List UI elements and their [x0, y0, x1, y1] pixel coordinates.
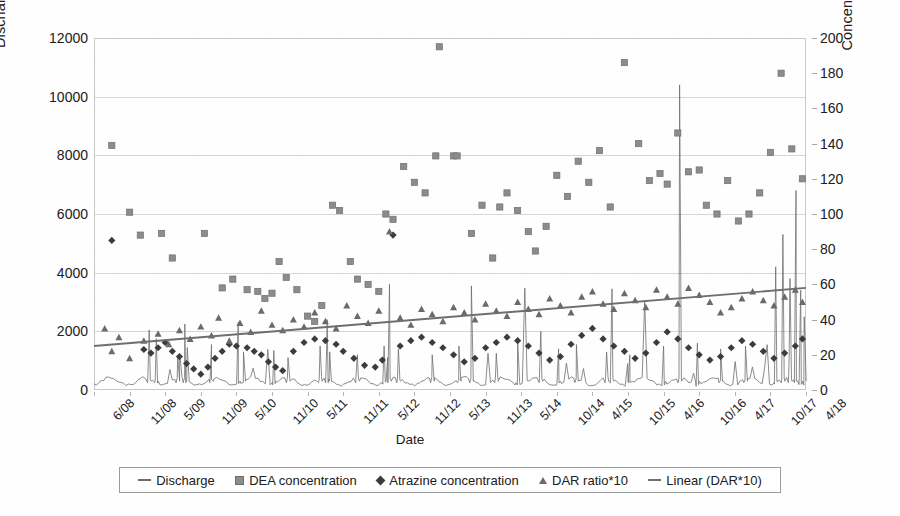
dea-marker — [255, 288, 261, 294]
atrazine-marker — [461, 358, 468, 365]
x-axis-tick: 5/14 — [537, 396, 564, 423]
x-axis-tickmark — [343, 392, 344, 396]
dar-marker — [126, 355, 133, 361]
atrazine-marker — [279, 367, 286, 374]
dar-marker — [799, 299, 806, 305]
atrazine-marker — [621, 348, 628, 355]
atrazine-marker — [350, 355, 357, 362]
legend-item-label: Atrazine concentration — [389, 473, 518, 488]
y-axis-right-tick: 20 — [820, 348, 860, 362]
atrazine-marker — [706, 356, 713, 363]
dea-marker — [497, 204, 503, 210]
atrazine-marker — [503, 334, 510, 341]
atrazine-marker — [258, 351, 265, 358]
atrazine-marker — [211, 355, 218, 362]
atrazine-marker — [169, 348, 176, 355]
dea-marker — [169, 255, 175, 261]
x-axis-tickmark — [557, 392, 558, 396]
dea-marker — [244, 287, 250, 293]
dea-marker — [262, 295, 268, 301]
dea-marker — [564, 193, 570, 199]
y-axis-left-tick: 2000 — [32, 324, 88, 338]
dea-marker — [201, 230, 207, 236]
y-axis-left-tick: 4000 — [32, 266, 88, 280]
atrazine-marker — [176, 353, 183, 360]
dea-marker — [294, 287, 300, 293]
legend-diamond-icon — [376, 475, 386, 485]
dea-marker — [703, 202, 709, 208]
x-axis-tickmark — [94, 392, 95, 396]
y-axis-left-tick: 0 — [32, 383, 88, 397]
dea-marker — [778, 70, 784, 76]
y-axis-right-tick: 40 — [820, 313, 860, 327]
atrazine-marker — [792, 342, 799, 349]
atrazine-marker — [439, 344, 446, 351]
atrazine-marker — [332, 341, 339, 348]
dea-marker — [422, 190, 428, 196]
plot-area — [94, 38, 806, 390]
dea-marker — [312, 318, 318, 324]
legend-item[interactable]: DAR ratio*10 — [539, 473, 628, 488]
dea-marker — [411, 179, 417, 185]
atrazine-marker — [219, 348, 226, 355]
y-axis-right-tickmark — [812, 320, 817, 321]
atrazine-marker — [243, 344, 250, 351]
x-axis-tick: 5/11 — [323, 396, 349, 422]
atrazine-marker — [251, 348, 258, 355]
dea-marker — [607, 204, 613, 210]
atrazine-marker — [311, 335, 318, 342]
dar-marker — [354, 313, 361, 319]
dar-marker — [674, 300, 681, 306]
x-axis-tickmark — [770, 392, 771, 396]
y-axis-left-tick: 8000 — [32, 148, 88, 162]
dar-marker — [738, 295, 745, 301]
y-axis-left-title: Discharge in L s-1 — [0, 0, 8, 110]
atrazine-marker — [685, 344, 692, 351]
x-axis-tickmark — [521, 392, 522, 396]
legend-line-icon — [138, 479, 151, 481]
x-axis-tickmark — [628, 392, 629, 396]
x-axis-tickmark — [201, 392, 202, 396]
x-axis-tick: 4/15 — [609, 396, 636, 423]
y-axis-right-tickmark — [812, 249, 817, 250]
x-axis-tick: 4/17 — [751, 396, 778, 423]
legend-line-icon — [648, 479, 661, 481]
x-axis-tick: 11/12 — [432, 396, 463, 427]
x-axis-tick: 10/16 — [717, 396, 749, 428]
chart-legend: DischargeDEA concentrationAtrazine conce… — [119, 467, 781, 493]
atrazine-marker — [482, 344, 489, 351]
legend-item[interactable]: DEA concentration — [235, 473, 357, 488]
legend-item[interactable]: Atrazine concentration — [377, 473, 518, 488]
dea-marker — [319, 302, 325, 308]
x-axis-tickmark — [806, 392, 807, 396]
atrazine-marker — [340, 348, 347, 355]
y-axis-right-tick: 80 — [820, 242, 860, 256]
legend-item[interactable]: Discharge — [138, 473, 215, 488]
dar-marker — [728, 304, 735, 310]
x-axis-tick: 10/15 — [646, 396, 678, 428]
y-axis-right-tickmark — [812, 73, 817, 74]
dea-marker — [543, 223, 549, 229]
data-layer — [94, 38, 806, 390]
dea-marker — [746, 211, 752, 217]
x-axis-tick: 5/09 — [181, 396, 208, 423]
dar-marker — [503, 313, 510, 319]
y-axis-right-tickmark — [812, 144, 817, 145]
dea-marker — [490, 255, 496, 261]
x-axis-tickmark — [414, 392, 415, 396]
dar-marker — [568, 309, 575, 315]
atrazine-marker — [108, 237, 115, 244]
dea-marker — [436, 44, 442, 50]
legend-item[interactable]: Linear (DAR*10) — [648, 473, 761, 488]
dea-marker — [621, 60, 627, 66]
dea-marker — [305, 313, 311, 319]
dea-marker — [714, 211, 720, 217]
x-axis-tick: 11/08 — [147, 396, 178, 427]
dar-marker — [482, 300, 489, 306]
y-axis-right-tickmark — [812, 214, 817, 215]
dea-marker — [757, 190, 763, 196]
y-axis-right-tickmark — [812, 179, 817, 180]
x-axis-tickmark — [379, 392, 380, 396]
dea-marker — [767, 149, 773, 155]
dea-marker — [401, 163, 407, 169]
